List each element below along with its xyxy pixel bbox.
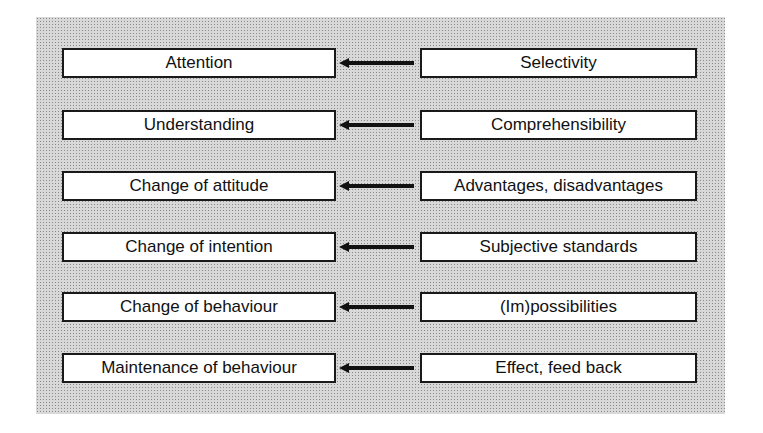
stage-box-intention: Change of intention [62,232,336,262]
stage-label: Attention [165,53,232,73]
arrow-left-icon [339,58,414,68]
factor-label: Effect, feed back [495,358,621,378]
factor-box-selectivity: Selectivity [420,48,697,78]
factor-box-advantages: Advantages, disadvantages [420,171,697,201]
factor-box-subjective-standards: Subjective standards [420,232,697,262]
factor-label: Advantages, disadvantages [454,176,663,196]
arrow-left-icon [339,120,414,130]
arrow-left-icon [339,302,414,312]
factor-label: Selectivity [520,53,597,73]
factor-box-feedback: Effect, feed back [420,353,697,383]
stage-box-maintenance: Maintenance of behaviour [62,353,336,383]
stage-box-understanding: Understanding [62,110,336,140]
factor-label: Subjective standards [480,237,638,257]
arrow-left-icon [339,242,414,252]
arrow-left-icon [339,363,414,373]
factor-label: Comprehensibility [491,115,626,135]
arrow-left-icon [339,181,414,191]
stage-label: Change of behaviour [120,297,278,317]
stage-label: Change of intention [125,237,272,257]
factor-label: (Im)possibilities [500,297,617,317]
stage-box-behaviour: Change of behaviour [62,292,336,322]
factor-box-impossibilities: (Im)possibilities [420,292,697,322]
stage-label: Maintenance of behaviour [101,358,297,378]
stage-label: Change of attitude [130,176,269,196]
factor-box-comprehensibility: Comprehensibility [420,110,697,140]
stage-label: Understanding [144,115,255,135]
stage-box-attention: Attention [62,48,336,78]
stage-box-attitude: Change of attitude [62,171,336,201]
